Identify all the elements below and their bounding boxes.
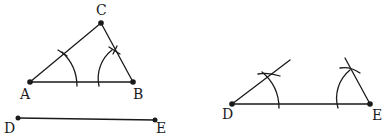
construction-canvas (0, 0, 385, 136)
ray-from-e (345, 58, 370, 104)
point-a (27, 79, 33, 85)
label-c: C (96, 3, 107, 17)
point-c (98, 20, 104, 26)
point-b (130, 79, 136, 85)
arc-at-e (337, 70, 350, 108)
point-e-right (367, 101, 373, 107)
arc-at-a (62, 52, 77, 86)
arc-at-d (262, 72, 279, 108)
arc-at-b (98, 50, 112, 86)
label-e-right: E (372, 108, 382, 122)
label-a: A (20, 87, 30, 101)
label-e-left: E (156, 121, 166, 135)
label-d-left: D (4, 121, 15, 135)
segment-de-left (18, 118, 155, 120)
point-d-left (16, 116, 21, 121)
side-ac (30, 23, 101, 82)
label-d-right: D (222, 107, 233, 121)
ray-from-d (232, 60, 290, 104)
label-b: B (133, 87, 143, 101)
geometry-figure: A B C D E D E (0, 0, 385, 136)
